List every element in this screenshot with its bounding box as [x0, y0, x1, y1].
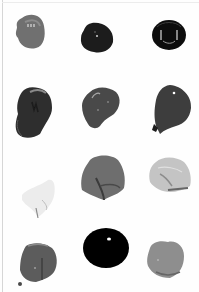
swatch-r3-c3 — [149, 158, 191, 193]
swatch-r4-c1 — [18, 243, 57, 286]
swatch-r1-c2 — [81, 23, 113, 53]
swatch-r2-c3 — [152, 85, 191, 134]
swatch-r2-c2 — [82, 88, 120, 129]
swatch-r4-c3 — [147, 241, 184, 278]
swatch-r3-c2 — [81, 156, 125, 201]
swatch-r1-c3 — [152, 20, 186, 50]
swatch-r1-c1 — [16, 15, 45, 49]
swatch-r2-c1 — [16, 87, 52, 138]
swatch-grid — [0, 0, 199, 292]
swatch-r3-c1 — [22, 180, 55, 218]
swatch-r4-c2 — [83, 228, 129, 268]
